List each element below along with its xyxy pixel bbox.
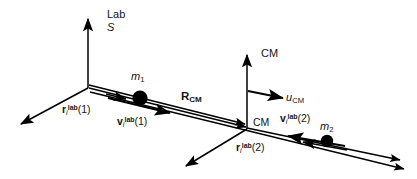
diagram-canvas bbox=[0, 0, 417, 179]
v-lab-1-label: vilab(1) bbox=[117, 116, 147, 127]
u-cm-vector bbox=[248, 91, 283, 98]
r-lab-2-label: rilab(2) bbox=[236, 142, 265, 153]
mass-1-marker bbox=[132, 90, 147, 105]
mass-2-index: 2 bbox=[329, 125, 333, 134]
mass-1-label: m1 bbox=[131, 71, 144, 82]
cm-origin-label-text: CM bbox=[253, 116, 269, 128]
lab-frame-symbol: S bbox=[107, 22, 125, 33]
r-cm-subscript: CM bbox=[189, 95, 202, 104]
mass-2-label: m2 bbox=[320, 121, 333, 132]
mass-2-marker bbox=[321, 135, 333, 147]
physics-diagram-figure: Lab S CM CM m1 m2 RCM uCM rilab(1) vilab… bbox=[0, 0, 417, 179]
lab-frame-label: Lab S bbox=[107, 9, 125, 33]
r-lab-1-superscript: lab bbox=[68, 104, 78, 111]
r-cm-label: RCM bbox=[181, 91, 202, 103]
r-cm-vector-line bbox=[89, 85, 245, 124]
u-cm-label: uCM bbox=[286, 92, 304, 103]
v-lab-2-label: vilab(2) bbox=[280, 113, 310, 124]
v-lab-2-superscript: lab bbox=[287, 113, 297, 120]
r-lab-1-vector-line bbox=[89, 88, 246, 127]
r-lab-2-argument: (2) bbox=[252, 141, 265, 153]
mass-1-index: 1 bbox=[140, 75, 144, 84]
lab-frame-label-text: Lab bbox=[107, 8, 125, 20]
r-lab-1-argument: (1) bbox=[78, 103, 91, 115]
r-lab-1-label: rilab(1) bbox=[62, 104, 91, 115]
cm-axis-label-text: CM bbox=[261, 47, 278, 59]
mass-1-symbol: m bbox=[131, 70, 140, 82]
u-cm-subscript: CM bbox=[292, 96, 304, 105]
v-lab-1-argument: (1) bbox=[135, 115, 148, 127]
mass-2-symbol: m bbox=[320, 120, 329, 132]
r-cm-vector bbox=[89, 85, 245, 124]
u-cm-vector-line bbox=[248, 91, 283, 98]
v-lab-1-superscript: lab bbox=[124, 116, 134, 123]
r-lab-2-superscript: lab bbox=[242, 142, 252, 149]
r-lab-1-vector bbox=[89, 88, 246, 127]
cm-axis-label: CM bbox=[261, 48, 278, 59]
v-lab-2-argument: (2) bbox=[298, 112, 311, 124]
cm-origin-label: CM bbox=[253, 117, 269, 128]
